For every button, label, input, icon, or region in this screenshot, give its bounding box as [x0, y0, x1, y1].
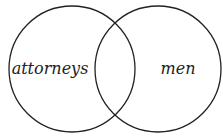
- men-label: men: [161, 59, 196, 78]
- attorneys-label: attorneys: [12, 59, 89, 78]
- venn-diagram: attorneys men: [0, 0, 223, 136]
- men-circle: [95, 6, 221, 132]
- venn-svg: attorneys men: [0, 0, 223, 136]
